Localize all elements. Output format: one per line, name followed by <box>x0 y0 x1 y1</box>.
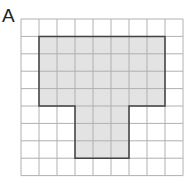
grid-diagram <box>0 0 184 194</box>
shaded-shape <box>39 36 165 158</box>
